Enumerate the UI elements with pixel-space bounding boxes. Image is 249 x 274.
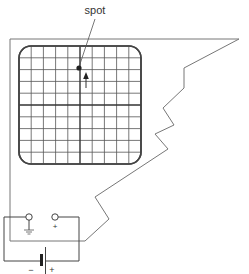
spot-label: spot	[85, 4, 106, 16]
positive-terminal-label: +	[53, 222, 58, 231]
ground-icon	[24, 230, 34, 234]
battery-minus-label: −	[28, 265, 33, 274]
ground-terminal	[24, 214, 34, 234]
spot	[76, 65, 81, 70]
oscilloscope-diagram: spot +	[0, 0, 249, 274]
battery-icon	[40, 247, 46, 274]
diagram-svg: spot +	[0, 0, 249, 274]
battery-plus-label: +	[49, 265, 54, 274]
positive-terminal: +	[52, 214, 58, 231]
